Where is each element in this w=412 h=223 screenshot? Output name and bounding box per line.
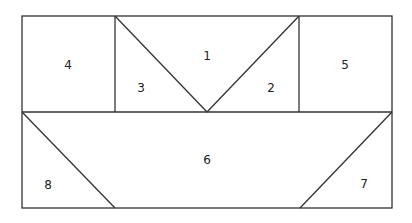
region-label-6: 6 [203, 153, 211, 167]
region-label-5: 5 [341, 58, 349, 72]
diagonal-6-7 [300, 112, 392, 208]
region-label-3: 3 [137, 81, 145, 95]
region-label-7: 7 [360, 177, 368, 191]
region-label-2: 2 [267, 81, 275, 95]
diagonal-3-1 [115, 16, 207, 112]
region-label-1: 1 [203, 49, 211, 63]
diagonal-8-6 [22, 112, 115, 208]
region-label-8: 8 [44, 178, 52, 192]
diagonal-1-2 [207, 16, 299, 112]
region-label-4: 4 [64, 58, 72, 72]
partition-diagram: 1 2 3 4 5 6 7 8 [0, 0, 412, 223]
